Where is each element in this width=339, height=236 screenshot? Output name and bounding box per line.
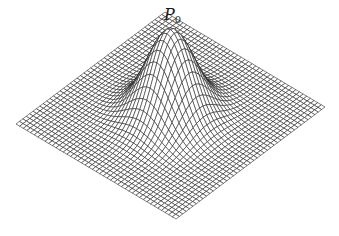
peak-label-subscript: 0 [175,14,181,25]
peak-label-main: P [164,5,175,24]
surface-figure: P0 [0,0,339,236]
peak-label-p0: P0 [164,7,181,25]
mesh-quads [16,12,325,219]
gaussian-wireframe-surface [0,0,339,236]
